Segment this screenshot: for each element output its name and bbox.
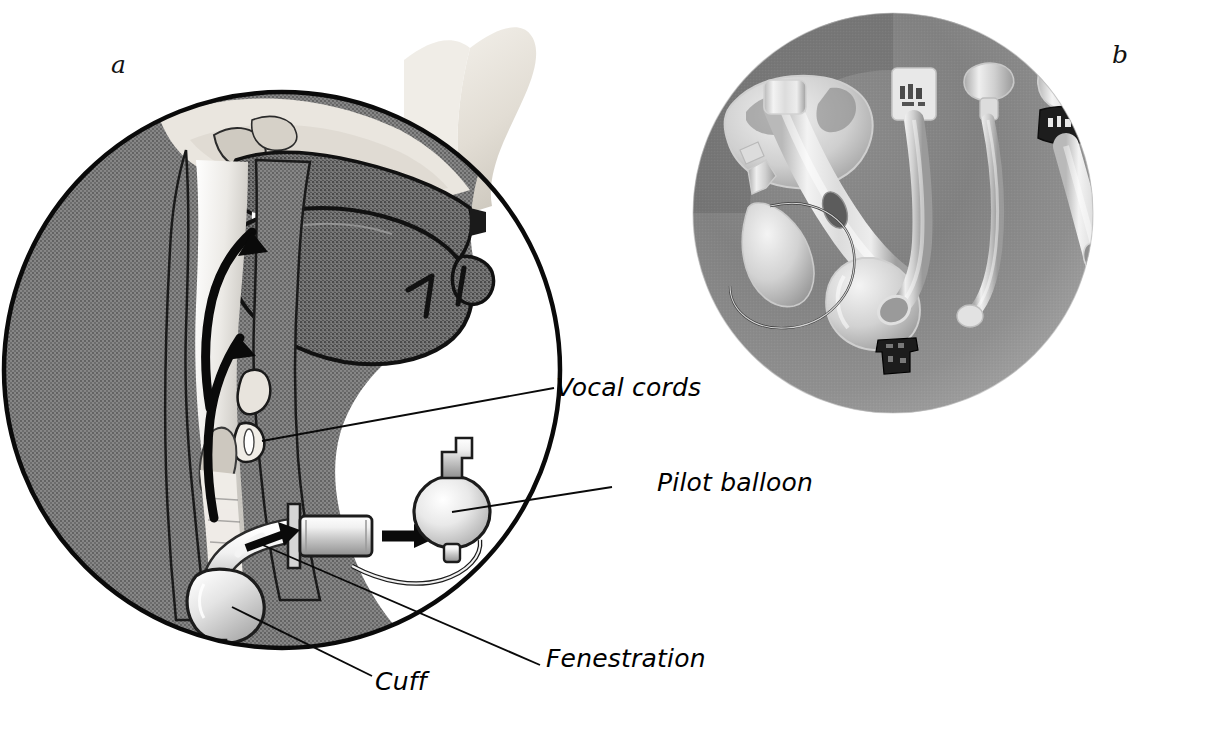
pilot-balloon-valve bbox=[442, 438, 472, 478]
tube-connector-hub bbox=[300, 516, 372, 556]
callout-cuff: Cuff bbox=[375, 667, 427, 696]
callout-pilot-balloon: Pilot balloon bbox=[657, 468, 813, 497]
panel-b-letter: b bbox=[1112, 40, 1128, 69]
obturator-rounded-tip bbox=[957, 305, 983, 327]
callout-vocal-cords: Vocal cords bbox=[556, 373, 701, 402]
epiglottis bbox=[238, 370, 271, 415]
photo-contents bbox=[693, 13, 1137, 413]
tube-4-proximal-hub bbox=[1038, 55, 1103, 110]
pilot-balloon-stem bbox=[444, 544, 460, 562]
panel-a: a bbox=[0, 0, 620, 729]
trach-tube-distal-tip bbox=[206, 640, 226, 671]
figure-root: a bbox=[0, 0, 1212, 729]
panel-a-artwork bbox=[0, 0, 620, 729]
tube-1-hub bbox=[764, 80, 806, 114]
glottic-aperture bbox=[244, 429, 254, 455]
callout-fenestration: Fenestration bbox=[546, 644, 706, 673]
tube-4-tip bbox=[1115, 341, 1137, 359]
panel-b-artwork bbox=[630, 10, 1212, 460]
upper-lip bbox=[470, 208, 486, 236]
obturator-knob bbox=[964, 63, 1014, 100]
panel-a-letter: a bbox=[111, 50, 126, 79]
panel-b: b bbox=[630, 10, 1212, 460]
